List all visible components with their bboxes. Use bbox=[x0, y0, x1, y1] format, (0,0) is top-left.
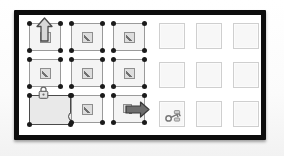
edit-pencil-icon bbox=[82, 32, 93, 43]
placeholder-cell-r3c2[interactable] bbox=[196, 101, 222, 127]
resize-handle-bottom-right[interactable] bbox=[58, 48, 63, 53]
empty-placeholder-grid[interactable] bbox=[159, 23, 259, 127]
resize-handle-bottom-right[interactable] bbox=[142, 84, 147, 89]
grid-cell-r2c3[interactable] bbox=[113, 59, 145, 87]
resize-handle-top-right[interactable] bbox=[58, 57, 63, 62]
resize-handle-bottom-left[interactable] bbox=[111, 84, 116, 89]
grid-cell-r3c1-selected[interactable] bbox=[29, 95, 71, 125]
resize-handle-bottom-right[interactable] bbox=[100, 84, 105, 89]
resize-handle-top-right[interactable] bbox=[58, 21, 63, 26]
canvas-surface[interactable] bbox=[19, 15, 261, 135]
resize-handle-top-left[interactable] bbox=[111, 57, 116, 62]
grid-cell-r3c2[interactable] bbox=[71, 95, 103, 123]
edit-pencil-icon bbox=[82, 104, 93, 115]
resize-handle-bottom-left[interactable] bbox=[27, 84, 32, 89]
resize-handle-top-right[interactable] bbox=[142, 93, 147, 98]
resize-handle-bottom-left[interactable] bbox=[69, 48, 74, 53]
screenshot-root bbox=[0, 0, 284, 156]
placeholder-cell-r2c1[interactable] bbox=[159, 62, 185, 88]
resize-handle-bottom-left[interactable] bbox=[69, 120, 74, 125]
resize-handle-top-right[interactable] bbox=[100, 21, 105, 26]
resize-handle-top-right[interactable] bbox=[100, 93, 105, 98]
edit-pencil-icon bbox=[40, 68, 51, 79]
lock-icon bbox=[38, 85, 49, 98]
resize-handle-bottom-right[interactable] bbox=[100, 120, 105, 125]
resize-handle-bottom-left[interactable] bbox=[69, 84, 74, 89]
resize-handle-top-right[interactable] bbox=[142, 21, 147, 26]
canvas-frame bbox=[14, 10, 266, 140]
arrow-up-icon bbox=[36, 17, 53, 42]
edit-pencil-icon bbox=[124, 68, 135, 79]
resize-handle-top-left[interactable] bbox=[111, 93, 116, 98]
resize-handle-bottom-right[interactable] bbox=[100, 48, 105, 53]
resize-handle-bottom-left[interactable] bbox=[111, 48, 116, 53]
resize-handle-bottom-left[interactable] bbox=[27, 48, 32, 53]
resize-handle-top-left[interactable] bbox=[27, 57, 32, 62]
resize-handle-bottom-right[interactable] bbox=[142, 48, 147, 53]
resize-handle-bottom-right[interactable] bbox=[142, 120, 147, 125]
arrow-right-icon bbox=[125, 101, 150, 118]
resize-handle-top-left[interactable] bbox=[69, 57, 74, 62]
resize-handle-top-right[interactable] bbox=[100, 57, 105, 62]
resize-handle-top-right[interactable] bbox=[142, 57, 147, 62]
grid-cell-r1c2[interactable] bbox=[71, 23, 103, 51]
key-icon bbox=[165, 109, 181, 122]
placeholder-cell-r2c2[interactable] bbox=[196, 62, 222, 88]
grid-cell-r1c3[interactable] bbox=[113, 23, 145, 51]
resize-handle-top-left[interactable] bbox=[69, 21, 74, 26]
resize-handle-top-left[interactable] bbox=[111, 21, 116, 26]
resize-handle-bottom-left[interactable] bbox=[111, 120, 116, 125]
edit-pencil-icon bbox=[124, 32, 135, 43]
resize-handle-top-left[interactable] bbox=[27, 21, 32, 26]
grid-cell-r2c1[interactable] bbox=[29, 59, 61, 87]
resize-handle-top-left[interactable] bbox=[69, 93, 74, 98]
resize-handle-top-left[interactable] bbox=[27, 93, 32, 98]
resize-handle-bottom-right[interactable] bbox=[58, 84, 63, 89]
placeholder-cell-r2c3[interactable] bbox=[233, 62, 259, 88]
placeholder-cell-r3c1[interactable] bbox=[159, 101, 185, 127]
resize-handle-bottom-left[interactable] bbox=[27, 122, 32, 127]
placeholder-cell-r1c1[interactable] bbox=[159, 23, 185, 49]
placeholder-cell-r1c3[interactable] bbox=[233, 23, 259, 49]
placeholder-cell-r3c3[interactable] bbox=[233, 101, 259, 127]
grid-cell-r2c2[interactable] bbox=[71, 59, 103, 87]
selected-widget-grid[interactable] bbox=[27, 21, 149, 129]
placeholder-cell-r1c2[interactable] bbox=[196, 23, 222, 49]
edit-pencil-icon bbox=[82, 68, 93, 79]
